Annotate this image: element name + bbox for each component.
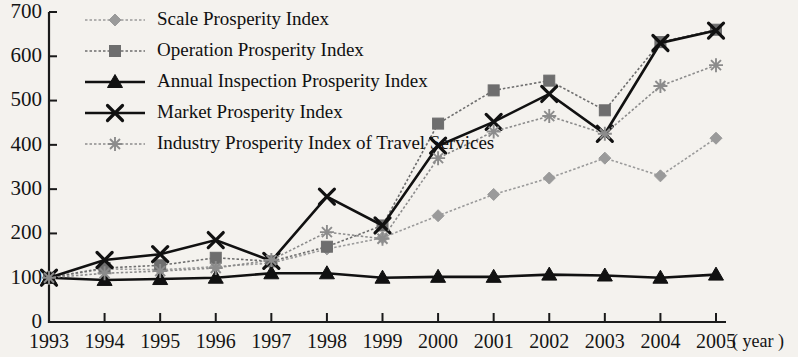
data-point — [42, 271, 56, 285]
legend-marker-icon — [109, 14, 121, 26]
x-axis-tick-label: 2002 — [529, 330, 569, 352]
data-point — [209, 261, 223, 275]
legend-item-label: Annual Inspection Prosperity Index — [157, 70, 428, 91]
data-point — [488, 188, 500, 200]
series-polyline — [49, 138, 716, 278]
data-point — [319, 189, 334, 204]
x-axis-tick-label: 1995 — [140, 330, 180, 352]
axes: 7006005004003002001000199319941995199619… — [11, 0, 784, 352]
legend-item-annual-inspection-prosperity-index[interactable]: Annual Inspection Prosperity Index — [85, 70, 428, 91]
data-point — [433, 118, 444, 129]
x-axis-tick-label: 1996 — [196, 330, 236, 352]
y-axis-tick-label: 100 — [11, 265, 43, 289]
data-point — [598, 127, 612, 141]
series-market-prosperity-index — [42, 23, 724, 285]
x-axis-tick-label: 1993 — [29, 330, 69, 352]
legend-item-label: Industry Prosperity Index of Travel Serv… — [157, 132, 494, 153]
legend-item-label: Market Prosperity Index — [157, 101, 343, 122]
x-axis-tick-label: 2005 — [696, 330, 736, 352]
x-axis-tick-label: 1997 — [251, 330, 291, 352]
x-axis-unit-label: ( year ) — [732, 331, 784, 352]
chart-canvas: 7006005004003002001000199319941995199619… — [0, 0, 798, 357]
data-point — [320, 225, 334, 239]
data-point — [544, 75, 555, 86]
legend-item-industry-prosperity-index-of-travel-services[interactable]: Industry Prosperity Index of Travel Serv… — [85, 132, 494, 153]
x-axis-tick-label: 2004 — [640, 330, 680, 352]
data-point — [153, 264, 167, 278]
line-chart: 7006005004003002001000199319941995199619… — [0, 0, 798, 357]
data-point — [599, 105, 610, 116]
legend-item-label: Scale Prosperity Index — [157, 8, 330, 29]
legend-marker-icon — [110, 46, 121, 57]
y-axis-tick-label: 700 — [11, 0, 43, 23]
data-series-group — [42, 23, 724, 285]
series-scale-prosperity-index — [43, 132, 722, 284]
data-point — [432, 210, 444, 222]
legend-item-market-prosperity-index[interactable]: Market Prosperity Index — [85, 101, 343, 122]
legend-item-label: Operation Prosperity Index — [157, 39, 364, 60]
legend-item-scale-prosperity-index[interactable]: Scale Prosperity Index — [85, 8, 330, 29]
legend-item-operation-prosperity-index[interactable]: Operation Prosperity Index — [85, 39, 364, 60]
chart-legend: Scale Prosperity IndexOperation Prosperi… — [85, 8, 494, 153]
data-point — [98, 266, 112, 280]
data-point — [599, 152, 611, 164]
data-point — [709, 58, 723, 72]
y-axis-tick-label: 400 — [11, 132, 43, 156]
data-point — [653, 79, 667, 93]
y-axis-tick-label: 600 — [11, 43, 43, 67]
data-point — [488, 85, 499, 96]
data-point — [654, 170, 666, 182]
data-point — [264, 253, 278, 267]
data-point — [710, 132, 722, 144]
x-axis-tick-label: 1998 — [307, 330, 347, 352]
series-industry-prosperity-index-of-travel-services — [42, 58, 723, 285]
y-axis-tick-label: 200 — [11, 220, 43, 244]
x-axis-tick-label: 1999 — [363, 330, 403, 352]
data-point — [376, 232, 390, 246]
data-point — [542, 109, 556, 123]
legend-marker-icon — [108, 137, 122, 151]
x-axis-tick-label: 1994 — [85, 330, 125, 352]
data-point — [542, 86, 557, 101]
data-point — [543, 172, 555, 184]
x-axis-tick-label: 2003 — [585, 330, 625, 352]
x-axis-tick-label: 2000 — [418, 330, 458, 352]
data-point — [321, 241, 332, 252]
x-axis-tick-label: 2001 — [474, 330, 514, 352]
y-axis-tick-label: 300 — [11, 176, 43, 200]
y-axis-tick-label: 500 — [11, 87, 43, 111]
